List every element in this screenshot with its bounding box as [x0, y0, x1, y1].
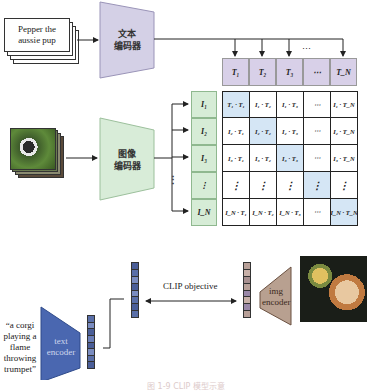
image-feature-ellipsis: ⋮ [191, 172, 217, 199]
matrix-cell: ⋯ [303, 198, 331, 226]
prompt-line: playing a [0, 331, 40, 342]
text-encoder-label: text [44, 336, 78, 347]
text-arrows-ellipsis: ⋯ [302, 44, 311, 54]
img-encoder-label: encoder [262, 297, 290, 308]
text-prompt: “a corgi playing a flame throwing trumpe… [0, 320, 40, 375]
matrix-cell: I₁ · T₂ [249, 91, 277, 118]
img-encoder-label: img [262, 286, 290, 297]
matrix-cell: ⋮ [249, 171, 277, 199]
matrix-cell: I₃ · T₂ [249, 144, 277, 172]
text-encoder-label: encoder [44, 347, 78, 358]
text-feature-3: T₃ [276, 58, 303, 86]
matrix-cell: ⋯ [303, 144, 331, 172]
figure-caption: 图 1-9 CLIP 模型示意 [0, 380, 372, 391]
matrix-cell: ⋮ [222, 171, 250, 199]
matrix-cell: I_N · T_N [330, 198, 358, 226]
matrix-cell: I₃ · T_N [330, 144, 358, 172]
image-feature-1: I₁ [191, 91, 217, 118]
matrix-cell: I₃ · T₃ [276, 144, 304, 172]
matrix-cell: I_N · T₂ [249, 198, 277, 226]
prompt-line: flame [0, 342, 40, 353]
dog-photo [10, 128, 56, 170]
matrix-cell: ⋯ [303, 91, 331, 118]
matrix-cell: I₂ · T_N [330, 117, 358, 145]
text-feature-ellipsis: ⋯ [303, 58, 330, 86]
matrix-cell: I₂ · T₂ [249, 117, 277, 145]
corgi-trumpet-photo [300, 256, 367, 322]
clip-objective-label: CLIP objective [163, 281, 217, 291]
text-encoder-label-line1: 文本 [100, 28, 154, 40]
image-arrows-ellipsis: ⋮ [168, 174, 178, 185]
prompt-line: “a corgi [0, 320, 40, 331]
text-embedding-vector [87, 315, 95, 369]
prompt-line: trumpet” [0, 364, 40, 375]
text-embedding-output-vector [131, 262, 139, 318]
text-feature-n: T_N [330, 58, 357, 86]
matrix-cell: T₁ · T₁ [222, 91, 250, 118]
matrix-cell: ⋯ [303, 117, 331, 145]
text-encoder: 文本 编码器 [100, 28, 154, 52]
matrix-cell: I₁ · T₃ [276, 91, 304, 118]
image-encoder-label-line1: 图像 [100, 148, 154, 160]
matrix-cell: ⋮ [303, 171, 331, 199]
text-encoder-label-line2: 编码器 [100, 40, 154, 52]
text-encoder-blue: text encoder [44, 336, 78, 358]
text-feature-2: T₂ [249, 58, 276, 86]
matrix-cell: I₂ · T₃ [276, 117, 304, 145]
image-embedding-vector [243, 262, 251, 318]
matrix-cell: I₁ · T_N [330, 91, 358, 118]
matrix-cell: I₂ · T₁ [222, 117, 250, 145]
matrix-cell: ⋮ [276, 171, 304, 199]
matrix-cell: I_N · T₁ [222, 198, 250, 226]
image-feature-3: I₃ [191, 145, 217, 172]
matrix-cell: ⋮ [330, 171, 358, 199]
text-feature-1: T₁ [222, 58, 249, 86]
image-encoder-label-line2: 编码器 [100, 160, 154, 172]
image-feature-n: I_N [191, 199, 217, 226]
matrix-cell: I₃ · T₁ [222, 144, 250, 172]
prompt-line: throwing [0, 353, 40, 364]
matrix-cell: I_N · T₃ [276, 198, 304, 226]
image-feature-2: I₂ [191, 118, 217, 145]
image-encoder: 图像 编码器 [100, 148, 154, 172]
img-encoder: img encoder [262, 286, 290, 308]
